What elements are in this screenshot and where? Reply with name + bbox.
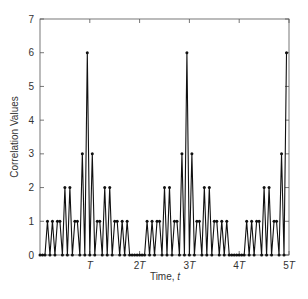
y-tick-label: 3	[28, 148, 34, 159]
data-point	[200, 254, 203, 257]
data-point	[118, 254, 121, 257]
data-point	[91, 152, 94, 155]
data-point	[198, 220, 201, 223]
data-point	[148, 254, 151, 257]
data-point	[103, 186, 106, 189]
data-point	[153, 254, 156, 257]
data-point	[76, 220, 79, 223]
correlation-chart: 01234567 T2T3T4T5T Time, t Correlation V…	[0, 0, 308, 299]
y-tick-label: 7	[28, 14, 34, 25]
data-point	[88, 254, 91, 257]
data-point	[43, 254, 46, 257]
data-point	[121, 220, 124, 223]
y-tick-label: 0	[28, 250, 34, 261]
y-tick-label: 2	[28, 182, 34, 193]
data-point	[215, 220, 218, 223]
x-axis-title: Time, t	[150, 271, 181, 282]
data-point	[123, 254, 126, 257]
data-point	[175, 220, 178, 223]
data-point	[53, 254, 56, 257]
data-point	[243, 254, 246, 257]
data-point	[146, 220, 149, 223]
data-point	[163, 186, 166, 189]
data-point	[185, 51, 188, 54]
x-tick-label: 3T	[184, 260, 197, 271]
data-point	[51, 220, 54, 223]
data-point	[46, 220, 49, 223]
x-tick-label: 2T	[134, 260, 147, 271]
x-tick-label: 4T	[233, 260, 246, 271]
data-point	[225, 220, 228, 223]
data-point	[151, 220, 154, 223]
data-point	[275, 220, 278, 223]
data-point	[68, 186, 71, 189]
data-point	[250, 220, 253, 223]
data-point	[183, 254, 186, 257]
y-axis-title: Correlation Values	[9, 96, 20, 178]
data-point	[180, 152, 183, 155]
data-point	[260, 254, 263, 257]
data-point	[205, 254, 208, 257]
data-point	[161, 254, 164, 257]
data-point	[165, 254, 168, 257]
data-point	[101, 254, 104, 257]
data-point	[48, 254, 51, 257]
data-point	[116, 220, 119, 223]
data-point	[210, 254, 213, 257]
data-point	[71, 254, 74, 257]
data-point	[245, 220, 248, 223]
data-point	[61, 254, 64, 257]
data-point	[86, 51, 89, 54]
data-point	[143, 254, 146, 257]
data-point	[190, 152, 193, 155]
y-tick-label: 6	[28, 47, 34, 58]
data-point	[270, 254, 273, 257]
data-point	[158, 220, 161, 223]
data-point	[223, 254, 226, 257]
data-point	[208, 186, 211, 189]
data-point	[98, 220, 101, 223]
data-point	[78, 254, 81, 257]
y-axis-ticks: 01234567	[28, 14, 289, 261]
data-point	[108, 186, 111, 189]
x-tick-label: T	[87, 260, 94, 271]
data-point	[63, 186, 66, 189]
y-tick-label: 4	[28, 115, 34, 126]
data-point	[280, 152, 283, 155]
data-point	[168, 186, 171, 189]
correlation-series	[39, 51, 289, 256]
data-point	[81, 152, 84, 155]
data-point	[218, 254, 221, 257]
data-point	[248, 254, 251, 257]
data-point	[126, 220, 129, 223]
data-point	[93, 254, 96, 257]
data-point	[203, 186, 206, 189]
data-point	[268, 186, 271, 189]
data-point	[66, 254, 69, 257]
data-point	[178, 254, 181, 257]
data-point	[193, 254, 196, 257]
y-tick-label: 5	[28, 81, 34, 92]
data-point	[253, 254, 256, 257]
data-point	[263, 186, 266, 189]
x-tick-label: 5T	[283, 260, 296, 271]
data-point	[220, 220, 223, 223]
data-point	[83, 254, 86, 257]
data-point	[283, 254, 286, 257]
y-tick-label: 1	[28, 216, 34, 227]
data-point	[285, 51, 288, 54]
data-point	[265, 254, 268, 257]
data-point	[58, 220, 61, 223]
plot-frame	[40, 19, 289, 255]
data-point	[111, 254, 114, 257]
data-point	[188, 254, 191, 257]
data-point	[106, 254, 109, 257]
data-point	[258, 220, 261, 223]
data-point	[278, 254, 281, 257]
data-point	[170, 254, 173, 257]
